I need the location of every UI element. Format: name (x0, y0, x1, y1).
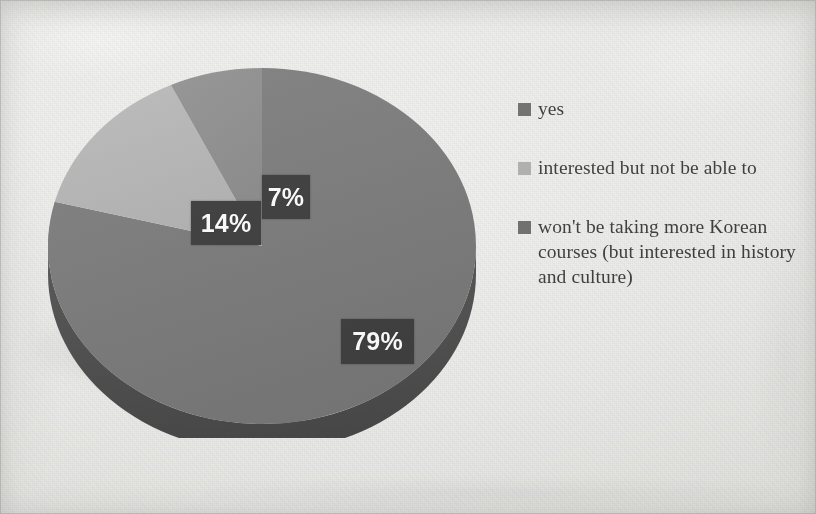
legend-label-yes: yes (538, 96, 564, 121)
chart-legend: yes interested but not be able to won't … (518, 96, 806, 323)
data-label-79-percent: 79% (341, 319, 414, 364)
data-label-14-percent: 14% (191, 201, 261, 245)
pie-svg (48, 54, 476, 438)
legend-item-yes: yes (518, 96, 806, 121)
data-label-7-percent: 7% (262, 175, 310, 219)
legend-label-interested-not-able: interested but not be able to (538, 155, 757, 180)
pie-top-face (48, 68, 476, 424)
legend-label-wont-be-taking: won't be taking more Korean courses (but… (538, 214, 800, 289)
legend-swatch-icon-yes (518, 103, 531, 116)
legend-item-wont-be-taking: won't be taking more Korean courses (but… (518, 214, 806, 289)
legend-swatch-icon-wont-be-taking (518, 221, 531, 234)
chart-area: 7% 14% 79% (0, 0, 500, 514)
legend-swatch-icon-interested-not-able (518, 162, 531, 175)
pie-chart-3d: 7% 14% 79% (48, 54, 476, 438)
legend-item-interested-not-able: interested but not be able to (518, 155, 806, 180)
pie-chart-scan: 7% 14% 79% yes interested but not be abl… (0, 0, 816, 514)
